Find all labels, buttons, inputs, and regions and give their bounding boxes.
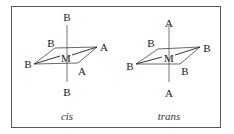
isomer-diagram: B B A B A M B cis A B B B B M A trans: [0, 0, 234, 134]
ligand-front-left: B: [24, 58, 31, 70]
bond-back-right: [72, 47, 97, 55]
ligand-front-right: B: [181, 65, 188, 77]
ligand-bottom: A: [165, 87, 173, 99]
ligand-front-left: B: [126, 60, 133, 72]
ligand-front-right: A: [78, 65, 86, 77]
metal-center: M: [164, 52, 174, 64]
ligand-bottom: B: [63, 86, 70, 98]
bond-front-left: [34, 56, 60, 64]
ligand-top: B: [63, 11, 70, 23]
ligand-top: A: [165, 17, 173, 29]
metal-center: M: [61, 52, 71, 64]
trans-isomer: A B B B B M A trans: [126, 17, 210, 122]
bond-front-left: [136, 57, 162, 64]
ligand-back-left: B: [47, 37, 54, 49]
caption-trans: trans: [158, 110, 181, 122]
ligand-back-left: B: [147, 37, 154, 49]
cis-isomer: B B A B A M B cis: [24, 11, 108, 122]
ligand-back-right: A: [100, 41, 108, 53]
ligand-back-right: B: [203, 42, 210, 54]
caption-cis: cis: [61, 110, 73, 122]
